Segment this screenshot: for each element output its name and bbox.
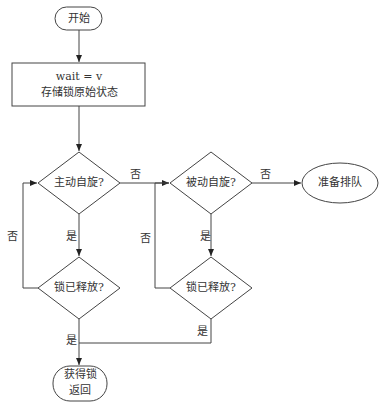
start-label: 开始 <box>68 12 90 27</box>
process-line1: wait = v <box>56 70 102 85</box>
end-line2: 返回 <box>69 384 91 399</box>
edge-label-active-yes: 是 <box>66 230 77 245</box>
decision-active-spin-label: 主动自旋? <box>54 176 104 191</box>
edge-label-released1-yes: 是 <box>66 334 77 349</box>
edge-label-released1-no: 否 <box>7 230 18 245</box>
queue-label: 准备排队 <box>318 176 362 191</box>
end-line1: 获得锁 <box>64 368 97 383</box>
edge-label-passive-yes: 是 <box>200 230 211 245</box>
edge-label-released2-yes: 是 <box>197 325 208 340</box>
edge-label-passive-no: 否 <box>260 168 271 183</box>
edge-label-released2-no: 否 <box>140 232 151 247</box>
process-line2: 存储锁原始状态 <box>41 86 118 101</box>
decision-passive-spin-label: 被动自旋? <box>186 176 236 191</box>
decision-lock-released-2-label: 锁已释放? <box>186 281 236 296</box>
edge-label-active-no: 否 <box>130 168 141 183</box>
decision-lock-released-1-label: 锁已释放? <box>54 281 104 296</box>
flowchart-canvas <box>0 0 386 408</box>
